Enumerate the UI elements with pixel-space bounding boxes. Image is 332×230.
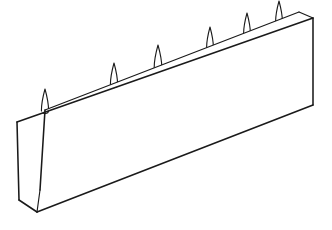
drawing-canvas [0,0,332,230]
spiked-board-figure [0,0,332,230]
